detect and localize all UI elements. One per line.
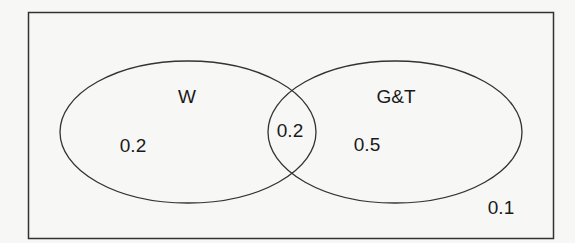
set-w-label: W (178, 86, 196, 108)
outside-value: 0.1 (488, 197, 514, 219)
set-gt-label: G&T (376, 86, 415, 108)
intersection-value: 0.2 (277, 120, 303, 142)
set-gt-ellipse (268, 61, 522, 203)
gt-only-value: 0.5 (354, 134, 380, 156)
w-only-value: 0.2 (120, 135, 146, 157)
